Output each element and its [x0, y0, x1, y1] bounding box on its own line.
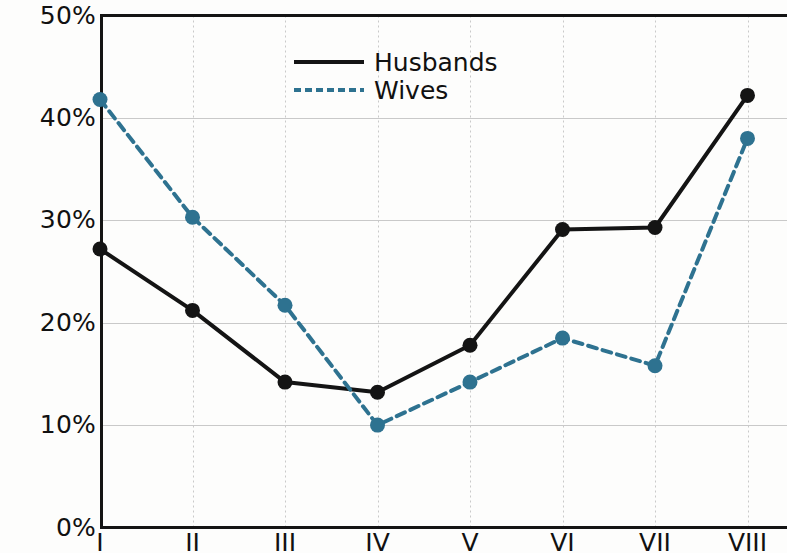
data-point-husbands-VI [555, 222, 570, 237]
data-point-husbands-I [93, 242, 108, 257]
data-point-wives-VI [555, 331, 570, 346]
data-point-wives-V [463, 375, 478, 390]
legend-label-wives: Wives [365, 78, 448, 103]
data-point-wives-VII [648, 358, 663, 373]
legend-line-wives-icon [293, 82, 365, 98]
line-chart: 50%40%30%20%10%0% IIIIIIIVVVIVIIVIII Hus… [0, 0, 787, 553]
legend-label-husbands: Husbands [365, 50, 498, 75]
data-point-wives-II [185, 210, 200, 225]
chart-legend: Husbands Wives [293, 48, 503, 104]
legend-item-husbands: Husbands [293, 48, 503, 76]
legend-line-husbands-icon [293, 54, 365, 70]
data-point-wives-III [278, 298, 293, 313]
data-point-husbands-VII [648, 220, 663, 235]
data-point-husbands-VIII [740, 88, 755, 103]
data-point-husbands-IV [370, 385, 385, 400]
data-point-wives-VIII [740, 131, 755, 146]
data-point-wives-I [93, 92, 108, 107]
data-point-husbands-V [463, 338, 478, 353]
data-point-wives-IV [370, 418, 385, 433]
data-point-husbands-III [278, 375, 293, 390]
data-point-husbands-II [185, 303, 200, 318]
legend-item-wives: Wives [293, 76, 503, 104]
